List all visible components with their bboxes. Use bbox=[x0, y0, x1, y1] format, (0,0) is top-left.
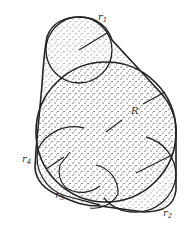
label-R: R bbox=[130, 105, 139, 116]
circle-envelope-diagram: r1 R r4 r3 r2 bbox=[0, 0, 190, 238]
label-r2: r2 bbox=[163, 207, 173, 220]
label-r4: r4 bbox=[22, 153, 31, 166]
